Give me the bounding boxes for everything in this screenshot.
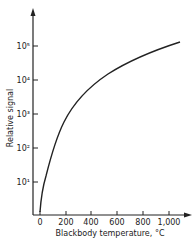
- svg-text:1,000: 1,000: [158, 218, 181, 227]
- y-axis-label: Relative signal: [6, 89, 15, 147]
- svg-text:10¹: 10¹: [17, 178, 30, 187]
- svg-text:10³: 10³: [17, 110, 30, 119]
- y-axis-arrow-icon: [31, 8, 36, 16]
- svg-text:200: 200: [58, 218, 73, 227]
- svg-text:800: 800: [135, 218, 150, 227]
- chart: 10⁵ 10⁴ 10³ 10² 10¹ 0 200 400 600 800 1,…: [0, 0, 196, 250]
- x-tick-labels: 0 200 400 600 800 1,000: [37, 218, 180, 227]
- svg-text:600: 600: [109, 218, 124, 227]
- svg-text:400: 400: [83, 218, 98, 227]
- svg-text:10²: 10²: [17, 144, 30, 153]
- svg-text:10⁴: 10⁴: [17, 76, 30, 85]
- x-axis-label: Blackbody temperature, °C: [56, 229, 165, 238]
- x-axis-arrow-icon: [184, 213, 192, 218]
- data-curve: [40, 42, 180, 212]
- y-tick-labels: 10⁵ 10⁴ 10³ 10² 10¹: [17, 42, 30, 187]
- svg-text:10⁵: 10⁵: [17, 42, 30, 51]
- svg-text:0: 0: [37, 218, 42, 227]
- y-ticks: [33, 46, 38, 182]
